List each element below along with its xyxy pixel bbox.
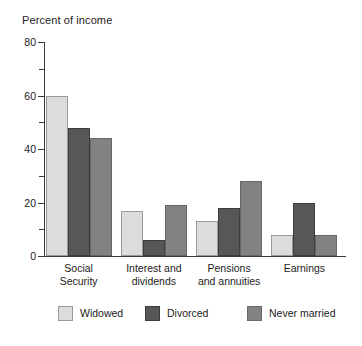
- bar: [46, 96, 68, 257]
- legend-item[interactable]: Widowed: [58, 303, 123, 323]
- bar: [143, 240, 165, 256]
- y-tick-major: [38, 256, 44, 257]
- bar: [90, 138, 112, 256]
- legend-swatch-icon: [247, 306, 262, 321]
- bar: [240, 181, 262, 256]
- y-tick-label: 0: [14, 251, 36, 262]
- y-tick-label: 80: [14, 37, 36, 48]
- legend-item[interactable]: Never married: [247, 303, 336, 323]
- legend-label: Divorced: [167, 307, 208, 319]
- bar: [218, 208, 240, 256]
- legend-swatch-icon: [145, 306, 160, 321]
- legend-item[interactable]: Divorced: [145, 303, 208, 323]
- plot-area: [44, 42, 345, 256]
- y-tick-label: 60: [14, 90, 36, 101]
- chart-legend: WidowedDivorcedNever married: [0, 303, 362, 329]
- legend-swatch-icon: [58, 306, 73, 321]
- y-tick-label: 40: [14, 144, 36, 155]
- legend-label: Never married: [269, 307, 336, 319]
- bar: [68, 128, 90, 256]
- bar-chart: Percent of income 020406080 Social Secur…: [0, 0, 362, 346]
- legend-label: Widowed: [80, 307, 123, 319]
- bar: [121, 211, 143, 256]
- bar: [165, 205, 187, 256]
- x-category-label: Earnings: [254, 262, 354, 275]
- bar: [315, 235, 337, 256]
- bar: [196, 221, 218, 256]
- bar: [293, 203, 315, 257]
- chart-title: Percent of income: [22, 14, 112, 26]
- x-axis-line: [44, 256, 346, 257]
- y-tick-label: 20: [14, 197, 36, 208]
- bar: [271, 235, 293, 256]
